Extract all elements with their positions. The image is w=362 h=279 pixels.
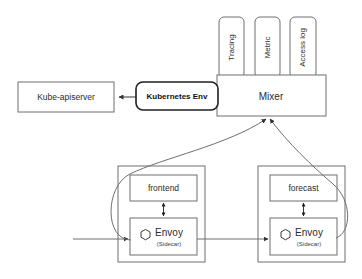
kubernetes-env-label: Kubernetes Env xyxy=(147,92,208,101)
metric-label: Metric xyxy=(263,37,272,59)
kube-apiserver-label: Kube-apiserver xyxy=(37,92,95,102)
envoy-right-label: Envoy xyxy=(295,227,323,238)
envoy-right-sublabel: (Sidecar) xyxy=(297,241,321,247)
tracing-label: Tracing xyxy=(227,34,236,60)
telemetry-adapters: Tracing Metric Access log xyxy=(219,17,316,78)
access-log-label: Access log xyxy=(298,28,307,67)
envoy-left-label: Envoy xyxy=(155,227,183,238)
pod-frontend[interactable]: frontend Envoy (Sidecar) xyxy=(118,166,205,262)
pod-forecast[interactable]: forecast Envoy (Sidecar) xyxy=(258,166,345,262)
envoy-left-sublabel: (Sidecar) xyxy=(157,241,181,247)
mixer-node[interactable]: Mixer xyxy=(217,75,326,116)
frontend-label: frontend xyxy=(148,183,179,193)
kube-apiserver-node[interactable]: Kube-apiserver xyxy=(18,82,114,112)
kubernetes-env-node[interactable]: Kubernetes Env xyxy=(136,82,218,110)
architecture-diagram: Tracing Metric Access log Mixer Kubernet… xyxy=(0,0,362,279)
diagram-canvas: Tracing Metric Access log Mixer Kubernet… xyxy=(0,0,362,279)
mixer-label: Mixer xyxy=(259,91,284,102)
forecast-label: forecast xyxy=(288,183,319,193)
